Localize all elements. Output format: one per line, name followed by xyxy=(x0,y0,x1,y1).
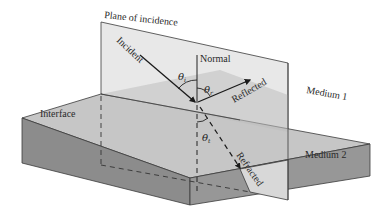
label-medium-2: Medium 2 xyxy=(305,149,346,160)
diagram-canvas: Plane of incidence Incident Normal Refle… xyxy=(0,0,390,222)
label-medium-1: Medium 1 xyxy=(306,84,349,102)
label-interface: Interface xyxy=(40,108,76,119)
label-normal: Normal xyxy=(200,53,231,64)
refraction-diagram: Plane of incidence Incident Normal Refle… xyxy=(0,0,390,222)
